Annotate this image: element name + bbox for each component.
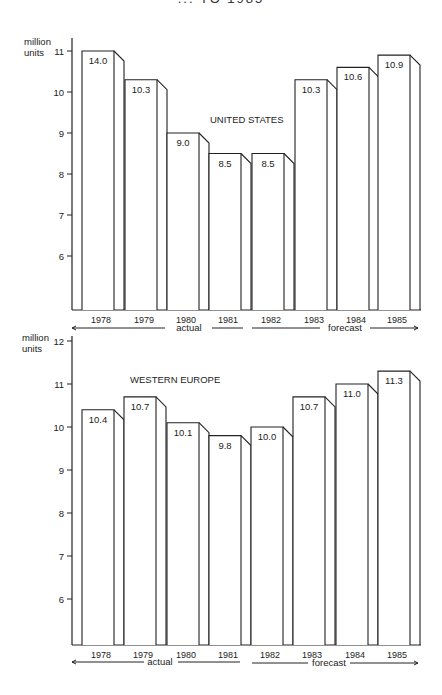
bar-front xyxy=(293,397,325,645)
bar-side xyxy=(114,410,124,645)
bar-side xyxy=(410,371,420,645)
y-tick-label: 6 xyxy=(59,251,64,262)
x-tick-label: 1980 xyxy=(176,650,196,660)
bar-front xyxy=(209,436,241,645)
bar-side xyxy=(241,154,251,311)
bar-value-label: 10.6 xyxy=(344,71,363,82)
bar-front xyxy=(167,133,199,310)
x-tick-label: 1984 xyxy=(345,650,365,660)
bar-side xyxy=(114,51,124,310)
y-tick-label: 6 xyxy=(59,594,64,605)
bar-front xyxy=(209,154,241,311)
bar-front xyxy=(337,67,369,310)
bar-side xyxy=(368,384,378,645)
bar-side xyxy=(410,55,420,310)
x-tick-label: 1978 xyxy=(91,650,111,660)
y-tick-label: 11 xyxy=(54,46,64,57)
bar-side xyxy=(241,436,251,645)
bar-front xyxy=(125,80,157,310)
y-tick-label: 10 xyxy=(53,422,64,433)
y-tick-label: 9 xyxy=(59,128,64,139)
x-tick-label: 1979 xyxy=(134,315,154,325)
bar-front xyxy=(124,397,156,645)
y-tick-label: 8 xyxy=(59,169,64,180)
x-tick-label: 1982 xyxy=(260,650,280,660)
bar-value-label: 10.3 xyxy=(132,84,151,95)
actual-period-label: actual xyxy=(147,656,172,667)
bar-front xyxy=(252,154,284,311)
bar-value-label: 10.0 xyxy=(258,431,277,442)
x-tick-label: 1982 xyxy=(261,315,281,325)
bar-side xyxy=(199,133,209,310)
forecast-period-label: forecast xyxy=(312,657,346,668)
bar-value-label: 11.3 xyxy=(385,375,403,386)
bar-front xyxy=(336,384,368,645)
bar-front xyxy=(167,423,199,645)
bar-side xyxy=(156,397,166,645)
bar-value-label: 10.9 xyxy=(385,59,404,70)
bar-value-label: 10.4 xyxy=(89,414,108,425)
bar-value-label: 8.5 xyxy=(218,158,231,169)
bar-front xyxy=(82,410,114,645)
y-tick-label: 12 xyxy=(53,336,64,347)
bar-value-label: 10.3 xyxy=(302,84,321,95)
bar-side xyxy=(325,397,335,645)
chart-title: UNITED STATES xyxy=(210,114,284,125)
bar-value-label: 8.5 xyxy=(261,158,274,169)
x-tick-label: 1985 xyxy=(387,315,407,325)
actual-period-label: actual xyxy=(176,322,201,333)
bar-value-label: 11.0 xyxy=(343,388,361,399)
x-tick-label: 1978 xyxy=(91,315,111,325)
bar-side xyxy=(157,80,167,310)
bar-front xyxy=(82,51,114,310)
bar-value-label: 10.1 xyxy=(174,427,193,438)
bar-front xyxy=(295,80,327,310)
y-tick-label: 11 xyxy=(54,379,64,390)
bar-value-label: 10.7 xyxy=(131,401,150,412)
bar-value-label: 10.7 xyxy=(300,401,319,412)
bar-value-label: 14.0 xyxy=(89,55,108,66)
y-tick-label: 7 xyxy=(59,210,64,221)
bar-side xyxy=(283,427,293,645)
charts-canvas: 6789101114.0197810.319799.019808.519818.… xyxy=(0,0,442,695)
bar-front xyxy=(378,55,410,310)
forecast-period-label: forecast xyxy=(328,322,362,333)
x-tick-label: 1981 xyxy=(218,315,238,325)
bar-side xyxy=(327,80,337,310)
y-tick-label: 10 xyxy=(53,87,64,98)
bar-front xyxy=(251,427,283,645)
bar-value-label: 9.8 xyxy=(218,440,231,451)
x-tick-label: 1985 xyxy=(387,650,407,660)
bar-side xyxy=(199,423,209,645)
x-tick-label: 1981 xyxy=(218,650,238,660)
y-tick-label: 9 xyxy=(59,465,64,476)
bar-side xyxy=(284,154,294,311)
x-tick-label: 1983 xyxy=(304,315,324,325)
bar-front xyxy=(378,371,410,645)
y-tick-label: 8 xyxy=(59,508,64,519)
y-tick-label: 7 xyxy=(59,551,64,562)
chart-title: WESTERN EUROPE xyxy=(130,374,220,385)
bar-value-label: 9.0 xyxy=(176,137,189,148)
